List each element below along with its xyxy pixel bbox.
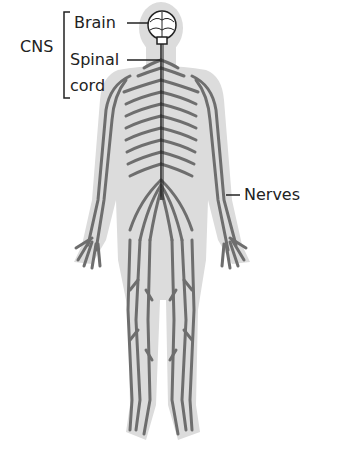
spinal-cord-label-line2: cord xyxy=(70,77,105,95)
nerves-label: Nerves xyxy=(244,186,300,204)
nervous-system-diagram xyxy=(0,0,338,455)
brain-label: Brain xyxy=(74,14,116,32)
cns-label: CNS xyxy=(20,38,53,56)
spinal-cord-label-line1: Spinal xyxy=(70,51,119,69)
